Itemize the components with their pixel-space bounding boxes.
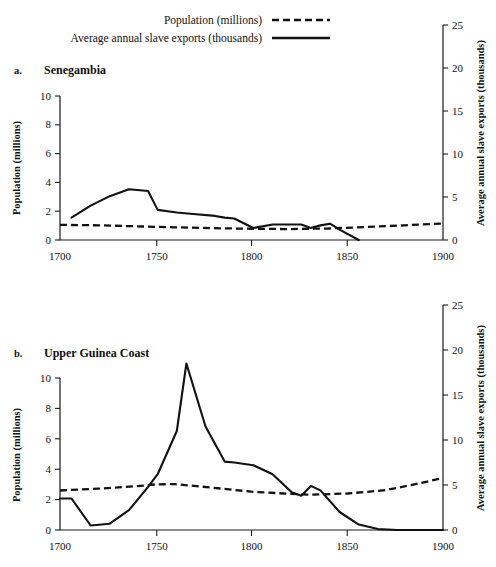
panel-a-xtick-1800: 1800 — [241, 250, 264, 262]
panel-a-ytick-6: 6 — [46, 147, 52, 159]
panel-a-ytick-4: 4 — [46, 176, 52, 188]
panel-b-ytick-0: 0 — [46, 524, 52, 536]
panel-b-letter: b. — [14, 348, 23, 359]
panel-b-xtick-1850: 1850 — [336, 540, 359, 552]
panel-b-x-ticks: 1700 1750 1800 1850 1900 — [49, 530, 455, 552]
panel-b-left-axis-title: Population (millions) — [11, 407, 23, 502]
panel-a-left-axis-title: Population (millions) — [11, 120, 23, 215]
panel-b-ytick-2: 2 — [46, 493, 52, 505]
panel-b-title: Upper Guinea Coast — [44, 346, 149, 360]
panel-a-y2tick-20: 20 — [452, 62, 464, 74]
panel-a-y2tick-0: 0 — [452, 234, 458, 246]
panel-b-axes — [60, 378, 443, 530]
legend-label-population: Population (millions) — [164, 14, 262, 27]
panel-a-x-ticks: 1700 1750 1800 1850 1900 — [49, 240, 455, 262]
panel-a-y2tick-25: 25 — [452, 19, 464, 31]
panel-a-y2tick-10: 10 — [452, 148, 464, 160]
panel-b-right-ticks: 0 5 10 15 20 25 — [443, 299, 464, 536]
panel-a-ytick-8: 8 — [46, 118, 52, 130]
panel-a-axes — [60, 96, 443, 240]
panel-a-xtick-1850: 1850 — [336, 250, 359, 262]
chart-legend: Population (millions) Average annual sla… — [71, 14, 330, 45]
panel-a-xtick-1900: 1900 — [432, 250, 455, 262]
panel-b: b. Upper Guinea Coast Population (millio… — [11, 299, 487, 552]
panel-b-right-axis-title: Average annual slave exports (thousands) — [475, 325, 487, 511]
panel-b-y2tick-5: 5 — [452, 479, 458, 491]
panel-b-ytick-10: 10 — [40, 372, 52, 384]
panel-a-right-ticks: 0 5 10 15 20 25 — [443, 19, 464, 246]
panel-a-y2tick-5: 5 — [452, 191, 458, 203]
panel-b-series-slave-exports — [60, 364, 443, 531]
panel-b-y2tick-25: 25 — [452, 299, 464, 311]
panel-a-left-ticks: 0 2 4 6 8 10 — [40, 90, 60, 246]
figure-root: Population (millions) Average annual sla… — [0, 0, 496, 567]
panel-a-title: Senegambia — [44, 63, 106, 77]
panel-b-xtick-1750: 1750 — [146, 540, 169, 552]
panel-a-series-slave-exports — [71, 189, 358, 240]
panel-b-y2tick-10: 10 — [452, 434, 464, 446]
panel-a-xtick-1700: 1700 — [49, 250, 72, 262]
panel-a-xtick-1750: 1750 — [146, 250, 169, 262]
panel-b-ytick-4: 4 — [46, 463, 52, 475]
panel-a: a. Senegambia Population (millions) Aver… — [11, 19, 487, 262]
panel-b-left-ticks: 0 2 4 6 8 10 — [40, 372, 60, 536]
panel-b-y2tick-15: 15 — [452, 389, 464, 401]
panel-b-ytick-6: 6 — [46, 433, 52, 445]
panel-a-ytick-0: 0 — [46, 234, 52, 246]
legend-label-slave-exports: Average annual slave exports (thousands) — [71, 32, 263, 45]
panel-b-y2tick-20: 20 — [452, 344, 464, 356]
panel-a-ytick-10: 10 — [40, 90, 52, 102]
panel-b-xtick-1700: 1700 — [49, 540, 72, 552]
panel-b-xtick-1800: 1800 — [241, 540, 264, 552]
panel-a-y2tick-15: 15 — [452, 105, 464, 117]
panel-b-ytick-8: 8 — [46, 402, 52, 414]
panel-a-right-axis-title: Average annual slave exports (thousands) — [475, 40, 487, 226]
panel-a-ytick-2: 2 — [46, 205, 52, 217]
panel-a-letter: a. — [14, 65, 22, 76]
two-panel-line-chart: Population (millions) Average annual sla… — [0, 0, 496, 567]
panel-b-xtick-1900: 1900 — [432, 540, 455, 552]
panel-b-series-population — [60, 478, 443, 495]
panel-b-y2tick-0: 0 — [452, 524, 458, 536]
